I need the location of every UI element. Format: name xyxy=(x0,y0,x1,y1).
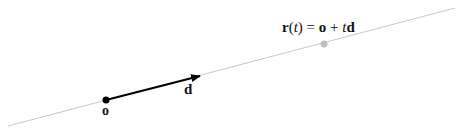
eq-d: d xyxy=(346,19,354,35)
eq-plus: + xyxy=(326,19,342,35)
sample-point xyxy=(321,41,328,48)
origin-label: o xyxy=(102,104,109,118)
ray-diagram: o d r(t) = o + td xyxy=(0,0,473,129)
diagram-canvas xyxy=(0,0,473,129)
eq-r: r xyxy=(282,19,289,35)
ray-line xyxy=(8,8,455,126)
eq-equals: = xyxy=(303,19,319,35)
direction-label: d xyxy=(184,82,192,97)
ray-equation: r(t) = o + td xyxy=(282,20,355,35)
